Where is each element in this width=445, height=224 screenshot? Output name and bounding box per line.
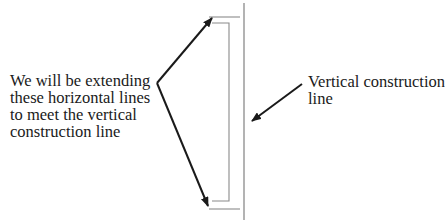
right-annotation-line: Vertical construction bbox=[308, 73, 445, 90]
left-annotation-line: these horizontal lines bbox=[10, 89, 150, 106]
arrow-to-bottom-line bbox=[157, 83, 208, 206]
left-annotation-line: to meet the vertical bbox=[10, 106, 150, 123]
right-annotation-text: Vertical construction line bbox=[308, 73, 445, 107]
arrow-to-vertical-line bbox=[252, 84, 302, 121]
arrow-to-top-line bbox=[157, 18, 212, 83]
left-annotation-line: We will be extending bbox=[10, 72, 150, 89]
right-annotation-line: line bbox=[308, 90, 445, 107]
left-annotation-line: construction line bbox=[10, 123, 150, 140]
left-annotation-text: We will be extending these horizontal li… bbox=[10, 72, 150, 140]
inner-bracket-shape bbox=[212, 23, 229, 201]
